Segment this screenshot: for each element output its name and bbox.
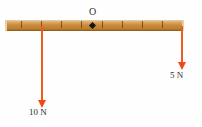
right-force-arrow-head bbox=[178, 62, 186, 70]
ruler-tick-mark bbox=[122, 21, 123, 28]
left-force-arrow-shaft bbox=[41, 26, 43, 100]
ruler-tick-mark bbox=[102, 21, 103, 28]
force-diagram-figure: O 10 N 5 N bbox=[0, 0, 202, 127]
ruler-tick-mark bbox=[21, 21, 22, 28]
ruler-tick-mark bbox=[142, 21, 143, 28]
left-force-label: 10 N bbox=[29, 108, 47, 117]
ruler-tick-mark bbox=[162, 21, 163, 28]
right-force-label: 5 N bbox=[170, 71, 183, 80]
right-force-arrow-shaft bbox=[181, 26, 183, 62]
ruler-tick-mark bbox=[81, 21, 82, 28]
ruler-left-end-cap bbox=[5, 20, 7, 31]
pivot-point-label: O bbox=[89, 7, 96, 17]
ruler-tick-mark bbox=[61, 21, 62, 28]
